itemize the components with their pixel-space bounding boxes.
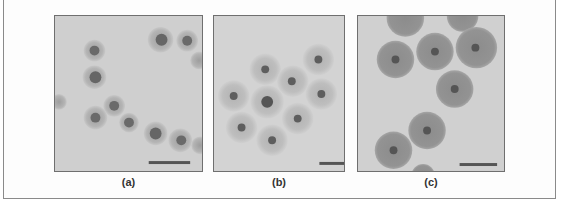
micrograph-c (358, 16, 504, 171)
micrograph-a (55, 16, 202, 171)
panel-b-label: (b) (213, 176, 345, 188)
scale-bar-a (149, 161, 190, 164)
scale-bar-c (460, 163, 497, 166)
panel-a-label: (a) (54, 176, 203, 188)
panel-c-image (357, 15, 505, 172)
panel-c-label: (c) (357, 176, 505, 188)
scale-bar-b (319, 162, 344, 165)
panel-a-image (54, 15, 203, 172)
panel-b-image (213, 15, 345, 172)
micrograph-b (214, 16, 344, 171)
